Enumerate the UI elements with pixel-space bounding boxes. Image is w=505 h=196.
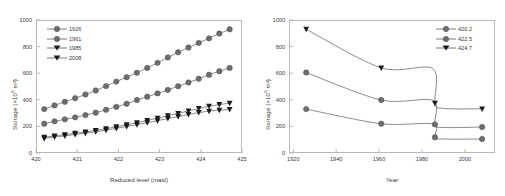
data-point-circle xyxy=(432,135,437,140)
right-y-tick-0: 0 xyxy=(263,150,285,156)
left-x-tick-421: 421 xyxy=(67,156,87,162)
right-y-tick-1000: 1000 xyxy=(263,17,285,23)
right-y-tick-200: 200 xyxy=(263,123,285,129)
data-point-circle xyxy=(72,115,77,120)
series-line-1961 xyxy=(44,68,229,124)
data-point-triangle xyxy=(41,136,47,142)
data-point-circle xyxy=(83,112,88,117)
legend-item-2008[interactable]: 2008 xyxy=(47,54,81,62)
triangle-marker-icon xyxy=(47,54,67,62)
data-point-circle xyxy=(124,101,129,106)
data-point-circle xyxy=(227,27,232,32)
legend-item-424-7[interactable]: 424.7 xyxy=(436,44,472,52)
data-point-circle xyxy=(175,84,180,89)
figure-two-panel-storage-charts: Storage (×106 m³) 1000 800 600 400 200 0 xyxy=(0,0,505,196)
right-x-tick-1940: 1940 xyxy=(326,156,346,162)
data-point-circle xyxy=(175,50,180,55)
right-x-tick-1980: 1980 xyxy=(412,156,432,162)
legend-item-420-2[interactable]: 420.2 xyxy=(436,25,472,33)
left-y-tick-800: 800 xyxy=(10,44,32,50)
legend-label-424-7: 424.7 xyxy=(458,45,472,51)
chart-panel-year: Storage (×106 m³) 1000 800 600 400 200 0 xyxy=(253,0,505,196)
right-x-tick-2000: 2000 xyxy=(455,156,475,162)
right-chart-x-axis-label: Year xyxy=(289,176,495,183)
data-point-circle xyxy=(155,91,160,96)
data-point-circle xyxy=(379,121,384,126)
right-y-tick-800: 800 xyxy=(263,44,285,50)
data-point-circle xyxy=(303,106,308,111)
data-point-circle xyxy=(62,99,67,104)
data-point-circle xyxy=(93,88,98,93)
left-y-tick-600: 600 xyxy=(10,70,32,76)
left-y-tick-200: 200 xyxy=(10,123,32,129)
data-point-circle xyxy=(72,96,77,101)
left-x-tick-420: 420 xyxy=(26,156,46,162)
right-x-tick-1920: 1920 xyxy=(283,156,303,162)
right-y-tick-600: 600 xyxy=(263,70,285,76)
left-chart-legend: 1926 1961 1985 2008 xyxy=(47,25,81,62)
right-y-label-suffix: m³) xyxy=(264,79,271,90)
legend-label-2008: 2008 xyxy=(69,55,81,61)
series-line-420.2 xyxy=(306,109,482,139)
data-point-circle xyxy=(432,122,437,127)
data-point-circle xyxy=(52,103,57,108)
left-x-tick-422: 422 xyxy=(108,156,128,162)
legend-label-1961: 1961 xyxy=(69,36,81,42)
legend-item-422-5[interactable]: 422.5 xyxy=(436,35,472,43)
circle-marker-icon xyxy=(436,35,456,43)
data-point-circle xyxy=(114,79,119,84)
data-point-circle xyxy=(479,124,484,129)
circle-marker-icon xyxy=(436,25,456,33)
data-point-circle xyxy=(227,65,232,70)
left-x-tick-424: 424 xyxy=(191,156,211,162)
data-point-circle xyxy=(103,107,108,112)
data-point-circle xyxy=(165,87,170,92)
circle-marker-icon xyxy=(47,25,67,33)
data-point-triangle xyxy=(432,101,438,107)
left-y-label-suffix: m³) xyxy=(11,79,18,90)
data-point-circle xyxy=(114,104,119,109)
data-point-circle xyxy=(124,74,129,79)
right-x-tick-1960: 1960 xyxy=(369,156,389,162)
data-point-circle xyxy=(186,45,191,50)
legend-label-1985: 1985 xyxy=(69,45,81,51)
data-point-circle xyxy=(134,97,139,102)
data-point-triangle xyxy=(303,27,309,33)
legend-label-420-2: 420.2 xyxy=(458,26,472,32)
data-point-circle xyxy=(379,97,384,102)
left-chart-y-axis-label: Storage (×106 m³) xyxy=(11,79,18,130)
left-y-label-exponent: 6 xyxy=(10,90,15,92)
right-y-tick-400: 400 xyxy=(263,97,285,103)
legend-item-1926[interactable]: 1926 xyxy=(47,25,81,33)
left-x-tick-425: 425 xyxy=(232,156,252,162)
data-point-circle xyxy=(217,31,222,36)
data-point-circle xyxy=(134,70,139,75)
legend-label-422-5: 422.5 xyxy=(458,36,472,42)
left-x-tick-423: 423 xyxy=(150,156,170,162)
data-point-circle xyxy=(93,110,98,115)
data-point-circle xyxy=(196,76,201,81)
left-y-tick-1000: 1000 xyxy=(10,17,32,23)
right-y-label-exponent: 6 xyxy=(263,90,268,92)
data-point-circle xyxy=(62,117,67,122)
data-point-circle xyxy=(479,136,484,141)
data-point-circle xyxy=(206,36,211,41)
legend-label-1926: 1926 xyxy=(69,26,81,32)
data-point-circle xyxy=(103,83,108,88)
data-point-circle xyxy=(196,40,201,45)
circle-marker-icon xyxy=(47,35,67,43)
data-point-circle xyxy=(186,80,191,85)
series-line-422.5 xyxy=(306,73,482,128)
data-point-circle xyxy=(83,92,88,97)
data-point-circle xyxy=(165,55,170,60)
data-point-circle xyxy=(145,65,150,70)
data-point-circle xyxy=(155,60,160,65)
legend-item-1961[interactable]: 1961 xyxy=(47,35,81,43)
triangle-marker-icon xyxy=(436,44,456,52)
data-point-circle xyxy=(145,94,150,99)
legend-item-1985[interactable]: 1985 xyxy=(47,44,81,52)
left-y-tick-400: 400 xyxy=(10,97,32,103)
data-point-circle xyxy=(217,69,222,74)
right-chart-y-axis-label: Storage (×106 m³) xyxy=(264,79,271,130)
data-point-circle xyxy=(52,119,57,124)
